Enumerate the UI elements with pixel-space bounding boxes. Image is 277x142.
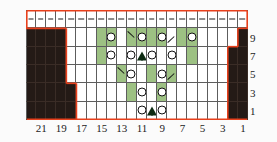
chart-cell-rtop-c22 bbox=[238, 10, 248, 28]
x-axis-label-13: 13 bbox=[116, 122, 127, 134]
left-decrease-icon bbox=[127, 28, 136, 45]
chart-cell-r3-c2 bbox=[36, 83, 46, 101]
chart-cell-r3-c16 bbox=[177, 83, 187, 101]
chart-cell-r1-c18 bbox=[198, 102, 208, 120]
chart-cell-rtop-c14 bbox=[157, 10, 167, 28]
chart-cell-rtop-c4 bbox=[56, 10, 66, 28]
chart-cell-r3-c5 bbox=[66, 83, 76, 101]
purl-dash-icon bbox=[108, 19, 114, 20]
chart-cell-r7-c19 bbox=[208, 47, 218, 65]
chart-cell-r3-c1 bbox=[26, 83, 36, 101]
yarn-over-icon bbox=[187, 32, 196, 41]
chart-cell-r7-c17 bbox=[187, 47, 197, 65]
x-axis-label-11: 11 bbox=[137, 122, 148, 134]
chart-cell-rtop-c1 bbox=[26, 10, 36, 28]
purl-dash-icon bbox=[139, 19, 145, 20]
purl-dash-icon bbox=[179, 19, 185, 20]
chart-cell-r1-c2 bbox=[36, 102, 46, 120]
yarn-over-icon bbox=[137, 87, 146, 96]
yarn-over-icon bbox=[137, 32, 146, 41]
chart-cell-r7-c5 bbox=[66, 47, 76, 65]
chart-cell-r9-c10 bbox=[117, 28, 127, 46]
chart-cell-r3-c13 bbox=[147, 83, 157, 101]
chart-cell-rtop-c18 bbox=[198, 10, 208, 28]
x-axis-label-9: 9 bbox=[159, 122, 165, 134]
x-axis-label-5: 5 bbox=[200, 122, 206, 134]
purl-dash-icon bbox=[199, 19, 205, 20]
chart-cell-r9-c17 bbox=[187, 28, 197, 46]
chart-cell-r1-c16 bbox=[177, 102, 187, 120]
chart-cell-r9-c3 bbox=[46, 28, 56, 46]
chart-cell-r7-c15 bbox=[167, 47, 177, 65]
chart-cell-r3-c17 bbox=[187, 83, 197, 101]
chart-cell-r1-c7 bbox=[87, 102, 97, 120]
chart-cell-r7-c16 bbox=[177, 47, 187, 65]
chart-cell-r5-c5 bbox=[66, 65, 76, 83]
chart-cell-r9-c6 bbox=[76, 28, 86, 46]
chart-cell-r7-c18 bbox=[198, 47, 208, 65]
chart-cell-r1-c17 bbox=[187, 102, 197, 120]
chart-cell-r5-c15 bbox=[167, 65, 177, 83]
chart-cell-r5-c13 bbox=[147, 65, 157, 83]
chart-grid bbox=[26, 10, 248, 120]
purl-dash-icon bbox=[230, 19, 236, 20]
chart-cell-r5-c10 bbox=[117, 65, 127, 83]
chart-cell-r7-c4 bbox=[56, 47, 66, 65]
yarn-over-icon bbox=[127, 51, 136, 60]
yarn-over-icon bbox=[157, 32, 166, 41]
chart-cell-r1-c1 bbox=[26, 102, 36, 120]
purl-dash-icon bbox=[129, 19, 135, 20]
chart-cell-r9-c9 bbox=[107, 28, 117, 46]
yarn-over-icon bbox=[157, 69, 166, 78]
purl-dash-icon bbox=[219, 19, 225, 20]
chart-cell-rtop-c13 bbox=[147, 10, 157, 28]
chart-cell-r3-c7 bbox=[87, 83, 97, 101]
x-axis-label-3: 3 bbox=[220, 122, 226, 134]
chart-cell-r9-c1 bbox=[26, 28, 36, 46]
purl-dash-icon bbox=[149, 19, 155, 20]
chart-cell-r9-c22 bbox=[238, 28, 248, 46]
left-decrease-icon bbox=[117, 65, 126, 82]
y-axis-label-1: 1 bbox=[250, 105, 256, 117]
chart-cell-r9-c20 bbox=[218, 28, 228, 46]
chart-cell-r9-c13 bbox=[147, 28, 157, 46]
chart-cell-r9-c7 bbox=[87, 28, 97, 46]
chart-cell-r9-c5 bbox=[66, 28, 76, 46]
purl-dash-icon bbox=[119, 19, 125, 20]
purl-dash-icon bbox=[78, 19, 84, 20]
chart-cell-r1-c21 bbox=[228, 102, 238, 120]
chart-cell-r7-c10 bbox=[117, 47, 127, 65]
chart-cell-r7-c9 bbox=[107, 47, 117, 65]
chart-cell-r3-c22 bbox=[238, 83, 248, 101]
chart-cell-r5-c3 bbox=[46, 65, 56, 83]
chart-cell-r1-c10 bbox=[117, 102, 127, 120]
yarn-over-icon bbox=[147, 51, 156, 60]
purl-dash-icon bbox=[98, 19, 104, 20]
chart-cell-r5-c11 bbox=[127, 65, 137, 83]
y-axis-label-5: 5 bbox=[250, 68, 256, 80]
chart-cell-r5-c16 bbox=[177, 65, 187, 83]
chart-cell-r1-c13 bbox=[147, 102, 157, 120]
yarn-over-icon bbox=[167, 51, 176, 60]
chart-cell-rtop-c19 bbox=[208, 10, 218, 28]
chart-cell-r9-c15 bbox=[167, 28, 177, 46]
chart-cell-r9-c2 bbox=[36, 28, 46, 46]
x-axis-labels: 21191715131197531 bbox=[26, 122, 248, 140]
chart-cell-rtop-c10 bbox=[117, 10, 127, 28]
chart-cell-r5-c20 bbox=[218, 65, 228, 83]
purl-dash-icon bbox=[169, 19, 175, 20]
chart-cell-rtop-c17 bbox=[187, 10, 197, 28]
chart-cell-rtop-c5 bbox=[66, 10, 76, 28]
chart-cell-r3-c3 bbox=[46, 83, 56, 101]
y-axis-label-7: 7 bbox=[250, 50, 256, 62]
chart-cell-rtop-c2 bbox=[36, 10, 46, 28]
chart-cell-r7-c2 bbox=[36, 47, 46, 65]
purl-dash-icon bbox=[38, 19, 44, 20]
knitting-chart-root: 21191715131197531 97531 bbox=[0, 0, 277, 142]
chart-cell-rtop-c15 bbox=[167, 10, 177, 28]
chart-cell-r3-c18 bbox=[198, 83, 208, 101]
central-double-decrease-icon bbox=[137, 51, 147, 60]
chart-cell-r5-c7 bbox=[87, 65, 97, 83]
chart-cell-r9-c14 bbox=[157, 28, 167, 46]
right-decrease-icon bbox=[167, 65, 176, 82]
